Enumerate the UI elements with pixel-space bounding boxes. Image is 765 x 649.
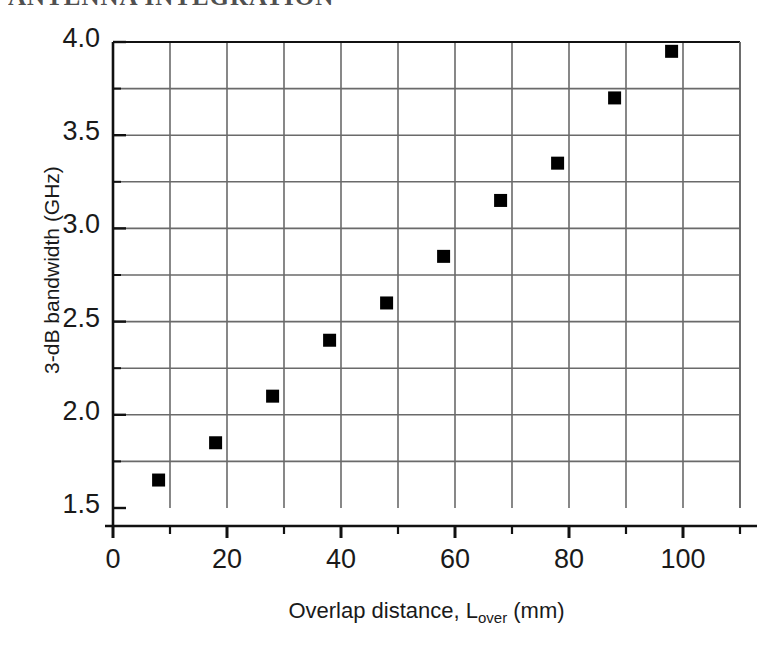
data-point-marker [494, 194, 507, 207]
x-axis-tick-label: 0 [63, 544, 163, 575]
data-point-marker [323, 334, 336, 347]
x-axis-tick-label: 20 [177, 544, 277, 575]
x-axis-tick-label: 60 [405, 544, 505, 575]
data-point-marker [551, 157, 564, 170]
x-axis-title-subscript: over [478, 609, 507, 626]
gridlines-group [113, 42, 740, 508]
tick-marks-group [113, 42, 740, 538]
data-point-marker [380, 296, 393, 309]
data-point-marker [266, 390, 279, 403]
y-axis-tick-label: 2.0 [8, 396, 100, 427]
data-point-marker [437, 250, 450, 263]
y-axis-tick-label: 1.5 [8, 489, 100, 520]
axes-group [105, 42, 757, 526]
x-axis-title-unit: (mm) [507, 598, 564, 623]
data-point-marker [209, 436, 222, 449]
y-axis-title: 3-dB bandwidth (GHz) [40, 140, 64, 400]
x-axis-title-main: Overlap distance, L [288, 598, 478, 623]
x-axis-tick-label: 80 [519, 544, 619, 575]
data-point-marker [152, 474, 165, 487]
x-axis-tick-label: 40 [291, 544, 391, 575]
data-markers-group [152, 45, 678, 487]
data-point-marker [665, 45, 678, 58]
x-axis-tick-label: 100 [633, 544, 733, 575]
data-point-marker [608, 91, 621, 104]
x-axis-title: Overlap distance, Lover (mm) [113, 598, 740, 626]
figure-container: 1.52.02.53.03.54.0 020406080100 3-dB ban… [0, 0, 765, 649]
y-axis-tick-label: 4.0 [8, 23, 100, 54]
